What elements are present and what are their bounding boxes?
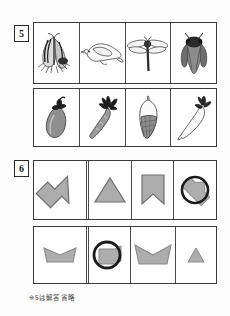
- eggplant-icon: [41, 95, 71, 141]
- cell-circled-chevron[interactable]: [174, 161, 216, 219]
- bamboo-shoot-icon: [133, 95, 163, 141]
- cell-circled-flag[interactable]: [89, 227, 131, 283]
- cicada-icon: [177, 30, 211, 76]
- answer-omitted-caption: ※5は解答省略: [29, 292, 75, 302]
- cell-cicada[interactable]: [171, 23, 216, 83]
- dragonfly-icon: [126, 31, 170, 75]
- pennant-banner-shape: [138, 172, 168, 208]
- cell-boat-banner[interactable]: [34, 227, 89, 283]
- problem-6-row-2: [33, 226, 217, 284]
- cell-pennant-banner[interactable]: [132, 161, 175, 219]
- chevron-arrow-right-shape: [36, 168, 84, 212]
- cell-boat-banner-large[interactable]: [131, 227, 176, 283]
- circled-flag-shape: [90, 236, 128, 274]
- cell-chevron-arrow-right[interactable]: [34, 161, 89, 219]
- cell-dragonfly[interactable]: [126, 23, 172, 83]
- cell-triangle[interactable]: [89, 161, 132, 219]
- cell-small-triangle[interactable]: [176, 227, 217, 283]
- problem-number-6: 6: [14, 160, 29, 177]
- small-triangle-shape: [186, 246, 206, 264]
- cell-daikon-radish[interactable]: [171, 89, 216, 146]
- boat-banner-shape: [40, 244, 80, 266]
- daikon-radish-icon: [176, 94, 212, 142]
- butterfly-icon: [36, 31, 76, 75]
- problem-number-5: 5: [14, 25, 29, 42]
- problem-6-row-1: [33, 160, 217, 220]
- problem-5-row-1: [33, 22, 217, 84]
- problem-5-row-2: [33, 88, 217, 147]
- circled-chevron-shape: [177, 171, 213, 209]
- triangle-shape: [92, 174, 128, 206]
- cell-eggplant[interactable]: [34, 89, 80, 146]
- cell-bamboo-shoot[interactable]: [126, 89, 172, 146]
- worksheet-page: 5: [0, 0, 230, 316]
- cell-butterfly[interactable]: [34, 23, 80, 83]
- cell-carrot[interactable]: [80, 89, 126, 146]
- cell-bird[interactable]: [80, 23, 126, 83]
- boat-banner-large-shape: [131, 242, 175, 268]
- bird-icon: [80, 37, 124, 69]
- carrot-icon: [84, 94, 120, 142]
